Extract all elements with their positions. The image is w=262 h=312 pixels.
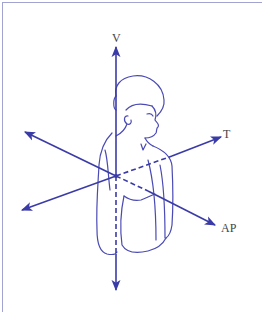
anteroposterior-axis-label: AP — [221, 222, 236, 234]
origin-point — [114, 174, 118, 178]
transverse-axis-label: T — [223, 128, 230, 140]
transverse-axis — [22, 137, 221, 210]
body-outline — [97, 76, 173, 255]
anteroposterior-axis — [25, 132, 215, 225]
vertical-axis-label: V — [112, 32, 121, 44]
